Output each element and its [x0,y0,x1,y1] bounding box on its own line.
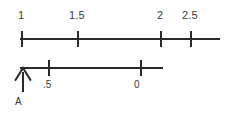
lower-label-0: .5 [43,80,51,90]
upper-tick-1 [77,31,79,47]
lower-tick-0 [48,60,50,76]
upper-tick-0 [21,31,23,47]
lower-tick-1 [140,60,142,76]
arrow-up-icon [13,66,33,82]
lower-label-1: 0 [134,80,140,90]
upper-label-2: 2 [157,10,163,21]
upper-label-3: 2.5 [182,10,198,21]
upper-tick-3 [190,31,192,47]
upper-label-0: 1 [18,10,24,21]
upper-tick-2 [160,31,162,47]
upper-label-1: 1.5 [69,10,85,21]
number-line-diagram: 11.522.5 .50 A [0,0,232,113]
marker-label-a: A [15,97,22,107]
